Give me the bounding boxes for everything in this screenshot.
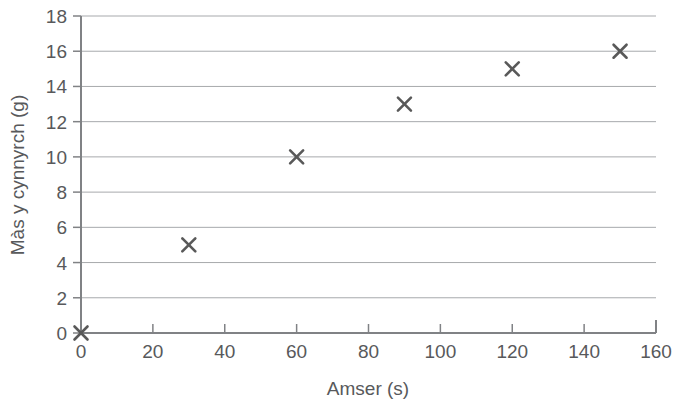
y-tick-label: 14 <box>46 76 68 97</box>
y-tick-label: 10 <box>46 147 67 168</box>
x-tick-label: 120 <box>496 341 528 362</box>
y-tick-label: 0 <box>56 323 67 344</box>
x-tick-label: 20 <box>142 341 163 362</box>
y-axis-title: Màs y cynnyrch (g) <box>7 95 28 255</box>
x-tick-label: 60 <box>286 341 307 362</box>
y-tick-label: 4 <box>56 253 67 274</box>
x-tick-label: 100 <box>425 341 457 362</box>
chart-canvas: 024681012141618 020406080100120140160 Am… <box>0 0 690 411</box>
y-tick-label: 8 <box>56 182 67 203</box>
x-tick-label: 160 <box>640 341 672 362</box>
y-tick-label: 18 <box>46 6 67 27</box>
x-tick-label: 140 <box>568 341 600 362</box>
scatter-chart: 024681012141618 020406080100120140160 Am… <box>0 0 690 411</box>
x-tick-label: 0 <box>76 341 87 362</box>
x-tick-label: 40 <box>214 341 235 362</box>
y-tick-label: 16 <box>46 41 67 62</box>
y-tick-label: 12 <box>46 112 67 133</box>
x-tick-label: 80 <box>358 341 379 362</box>
y-tick-label: 2 <box>56 288 67 309</box>
y-tick-label: 6 <box>56 217 67 238</box>
x-axis-title: Amser (s) <box>327 378 409 399</box>
